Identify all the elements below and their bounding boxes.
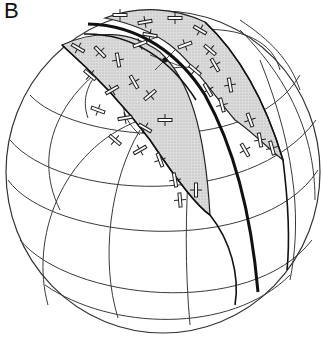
strike-dip-symbol (89, 102, 106, 118)
latitude-line (45, 275, 290, 319)
strike-dip-symbol (173, 193, 186, 208)
strike-dip-symbol (106, 131, 124, 149)
longitude-line (43, 120, 140, 305)
strike-dip-symbol (236, 141, 253, 159)
longitude-line (260, 60, 296, 280)
latitude-line (20, 240, 312, 293)
globe-diagram (0, 0, 323, 339)
strike-dip-symbol (131, 141, 149, 158)
latitude-line (8, 170, 318, 231)
